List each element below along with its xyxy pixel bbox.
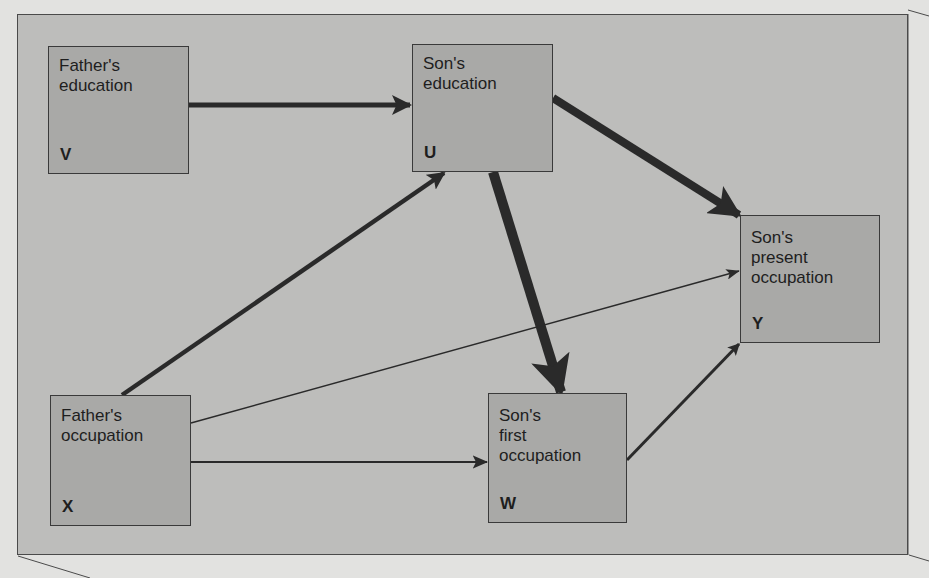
node-sons-present-occupation: Son's present occupation Y	[740, 215, 880, 343]
node-fathers-occupation: Father's occupation X	[50, 395, 191, 526]
node-label: Son's present occupation	[751, 228, 833, 288]
node-label: Father's education	[59, 56, 133, 96]
arrow-x-to-u	[122, 173, 444, 395]
node-symbol: W	[500, 494, 516, 514]
arrow-x-to-y	[191, 271, 739, 423]
node-label: Father's occupation	[61, 406, 143, 446]
node-label: Son's first occupation	[499, 406, 581, 466]
arrow-u-to-y	[553, 98, 739, 215]
node-symbol: U	[424, 143, 436, 163]
node-symbol: V	[60, 145, 71, 165]
node-label: Son's education	[423, 54, 497, 94]
node-symbol: X	[62, 497, 73, 517]
arrow-u-to-w	[493, 172, 561, 392]
node-fathers-education: Father's education V	[48, 46, 189, 174]
node-sons-education: Son's education U	[412, 44, 553, 172]
arrow-w-to-y	[627, 344, 739, 460]
node-sons-first-occupation: Son's first occupation W	[488, 393, 627, 523]
node-symbol: Y	[752, 314, 763, 334]
